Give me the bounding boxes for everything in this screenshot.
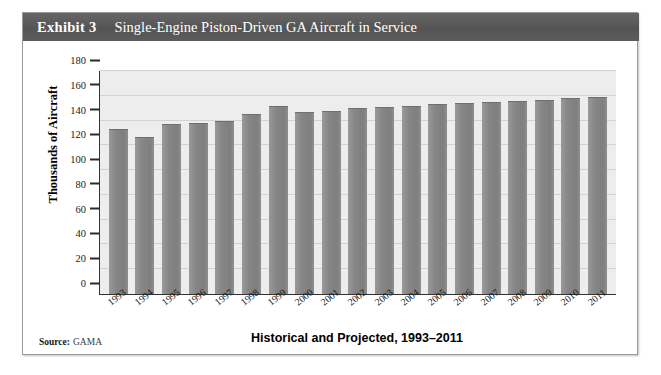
y-axis-tick: 140: [60, 104, 100, 115]
source-label: Source:: [39, 337, 70, 347]
bar-slot: [345, 71, 372, 294]
bar-slot: [318, 71, 345, 294]
bar: [135, 137, 154, 294]
y-axis-tick-label: 20: [60, 253, 90, 264]
bar-slot: [132, 71, 159, 294]
y-axis-tick-mark: [90, 183, 100, 185]
y-axis-tick: 180: [60, 55, 100, 66]
bar: [588, 97, 607, 294]
bar-slot: [425, 71, 452, 294]
y-axis-tick: 100: [60, 154, 100, 165]
y-axis-tick-label: 180: [60, 55, 90, 66]
bar: [269, 106, 288, 294]
bar-slot: [504, 71, 531, 294]
bar-slot: [105, 71, 132, 294]
source-line: Source:GAMA: [39, 337, 102, 347]
exhibit-number-label: Exhibit 3: [37, 19, 97, 36]
bar-slot: [212, 71, 239, 294]
plot-area: 020406080100120140160180: [99, 71, 616, 295]
y-axis-tick-label: 80: [60, 178, 90, 189]
bar-slot: [291, 71, 318, 294]
bar: [482, 102, 501, 294]
bar: [535, 100, 554, 295]
bar: [109, 129, 128, 294]
exhibit-title: Single-Engine Piston-Driven GA Aircraft …: [115, 19, 417, 36]
y-axis-tick-mark: [90, 109, 100, 111]
y-axis-tick-mark: [90, 84, 100, 86]
y-axis-tick-mark: [90, 59, 100, 61]
y-axis-tick-mark: [90, 282, 100, 284]
y-axis-tick: 160: [60, 79, 100, 90]
y-axis-tick: 120: [60, 129, 100, 140]
y-axis-tick-label: 120: [60, 129, 90, 140]
y-axis-tick: 40: [60, 228, 100, 239]
bar: [561, 98, 580, 294]
bar-slot: [584, 71, 611, 294]
y-axis-tick-label: 160: [60, 79, 90, 90]
bar: [455, 103, 474, 294]
y-axis-tick-label: 60: [60, 203, 90, 214]
bar: [242, 114, 261, 294]
exhibit-header: Exhibit 3 Single-Engine Piston-Driven GA…: [23, 13, 639, 41]
bar: [402, 106, 421, 294]
bar: [295, 112, 314, 294]
y-axis-title: Thousands of Aircraft: [46, 55, 61, 235]
y-axis-tick-mark: [90, 133, 100, 135]
y-axis-tick-label: 40: [60, 228, 90, 239]
x-axis-title: Historical and Projected, 1993–2011: [99, 331, 615, 345]
bar: [189, 123, 208, 294]
y-axis-tick-mark: [90, 232, 100, 234]
y-axis-tick-mark: [90, 208, 100, 210]
bar-slot: [558, 71, 585, 294]
bar: [428, 104, 447, 294]
bar: [162, 124, 181, 294]
y-axis-tick-label: 100: [60, 154, 90, 165]
y-axis-tick: 80: [60, 178, 100, 189]
y-axis-tick-mark: [90, 257, 100, 259]
y-axis-tick-mark: [90, 158, 100, 160]
chart-body: Thousands of Aircraft 020406080100120140…: [23, 41, 639, 355]
bar-slot: [478, 71, 505, 294]
bar-slot: [238, 71, 265, 294]
y-axis-tick: 0: [60, 278, 100, 289]
bar-slot: [371, 71, 398, 294]
bar: [215, 121, 234, 294]
y-axis-tick-label: 0: [60, 278, 90, 289]
y-axis-tick: 60: [60, 203, 100, 214]
y-axis-tick: 20: [60, 253, 100, 264]
source-value: GAMA: [73, 337, 102, 347]
bar-slot: [185, 71, 212, 294]
bar: [375, 107, 394, 294]
exhibit-frame: Exhibit 3 Single-Engine Piston-Driven GA…: [22, 12, 638, 355]
bar-slot: [265, 71, 292, 294]
y-axis-tick-label: 140: [60, 104, 90, 115]
bar-slot: [531, 71, 558, 294]
bar-slot: [158, 71, 185, 294]
bar-slot: [451, 71, 478, 294]
bar: [348, 108, 367, 294]
bar: [508, 101, 527, 294]
bar: [322, 111, 341, 294]
bar-series: [100, 71, 616, 294]
bar-slot: [398, 71, 425, 294]
